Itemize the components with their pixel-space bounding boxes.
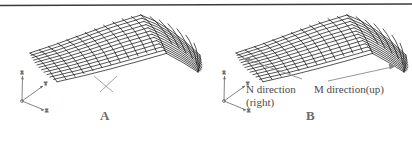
figure-canvas: Z Y X <box>0 0 412 142</box>
axis-label-z: Z <box>20 70 23 75</box>
axis-label-z: Z <box>222 70 225 75</box>
panel-label-a: A <box>100 108 110 124</box>
panel-label-b: B <box>306 108 315 124</box>
n-direction-label: N direction (right) <box>246 83 296 108</box>
m-direction-label: M direction(up) <box>314 83 384 96</box>
